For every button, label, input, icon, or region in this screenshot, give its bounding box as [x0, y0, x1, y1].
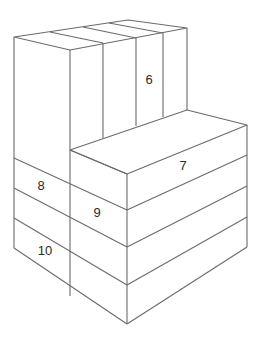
label-8: 8: [37, 178, 44, 193]
step-block: [14, 110, 247, 324]
block-stack-diagram: 6 7 8 9 10: [0, 0, 264, 344]
label-7: 7: [179, 158, 186, 173]
label-9: 9: [93, 205, 100, 220]
label-10: 10: [38, 243, 52, 258]
label-6: 6: [145, 72, 152, 87]
